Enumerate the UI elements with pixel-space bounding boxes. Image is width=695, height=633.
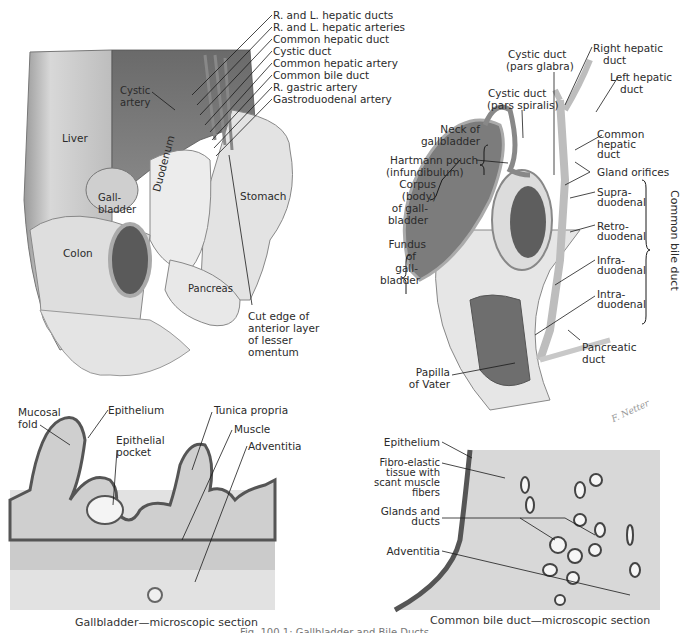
label-epithelium-gb: Epithelium <box>108 404 164 416</box>
label-cystic-artery: Cystic artery <box>120 85 154 109</box>
label-infraduodenal-2: duodenal <box>597 264 646 276</box>
label-tunica-propria: Tunica propria <box>214 404 288 416</box>
label-neck-2: gallbladder <box>410 135 480 147</box>
label-cystic-duct: Cystic duct <box>273 45 331 57</box>
label-cut-edge-4: omentum <box>248 346 299 358</box>
label-gastroduodenal-artery: Gastroduodenal artery <box>273 93 392 105</box>
label-rl-hepatic-ducts: R. and L. hepatic ducts <box>273 9 393 21</box>
label-cut-edge-2: anterior layer <box>248 322 319 334</box>
label-cystic-duct-glabra-2: (pars glabra) <box>506 60 574 72</box>
label-fundus-1: Fundus <box>380 238 426 250</box>
label-left-hepatic-duct-2: duct <box>620 83 643 95</box>
label-right-hepatic-duct-2: duct <box>603 54 626 66</box>
gallbladder-micro-illustration: Mucosal fold Epithelium Epithelial pocke… <box>0 390 290 633</box>
label-glands-2: ducts <box>360 515 440 527</box>
label-corpus-3: of gall- <box>380 202 428 214</box>
gross-anatomy-illustration: R. and L. hepatic ducts R. and L. hepati… <box>0 0 380 390</box>
label-cystic-duct-spiralis-2: (pars spiralis) <box>487 99 559 111</box>
label-corpus-1: Corpus <box>380 178 436 190</box>
label-fundus-3: gall- <box>380 262 418 274</box>
label-muscle: Muscle <box>234 423 270 435</box>
label-epithelial-pocket-2: pocket <box>116 446 151 458</box>
label-retroduodenal-2: duodenal <box>597 230 646 242</box>
label-epithelium-cbd: Epithelium <box>360 436 440 448</box>
label-mucosal-fold-1: Mucosal <box>18 406 61 418</box>
gallbladder-ducts-illustration: Cystic duct (pars glabra) Right hepatic … <box>380 0 695 430</box>
label-intraduodenal-2: duodenal <box>597 298 646 310</box>
label-colon: Colon <box>63 247 93 259</box>
label-cut-edge-1: Cut edge of <box>248 310 309 322</box>
label-common-hepatic-duct: Common hepatic duct <box>273 33 389 45</box>
gallbladder-micro-title: Gallbladder—microscopic section <box>75 616 258 629</box>
label-corpus-2: (body) <box>380 190 436 202</box>
label-common-bile-duct: Common bile duct <box>273 69 369 81</box>
label-common-hepatic-3: duct <box>597 148 620 160</box>
label-pancreatic-duct-2: duct <box>582 353 605 365</box>
label-cystic-duct-spiralis-1: Cystic duct <box>488 87 546 99</box>
label-papilla-1: Papilla <box>380 366 450 378</box>
cbd-micro-illustration: Epithelium Fibro-elastic tissue with sca… <box>360 430 695 633</box>
label-pancreatic-duct-1: Pancreatic <box>582 341 637 353</box>
label-epithelial-pocket-1: Epithelial <box>116 434 165 446</box>
label-fundus-4: bladder <box>380 274 418 286</box>
cbd-micro-title: Common bile duct—microscopic section <box>430 614 650 627</box>
label-gland-orifices: Gland orifices <box>597 166 669 178</box>
label-papilla-2: of Vater <box>380 378 450 390</box>
label-fundus-2: of <box>380 250 416 262</box>
label-r-gastric-artery: R. gastric artery <box>273 81 358 93</box>
label-pancreas: Pancreas <box>188 283 233 295</box>
label-fibro-elastic-4: fibers <box>360 488 440 498</box>
label-gallbladder: Gall- bladder <box>98 192 136 216</box>
label-left-hepatic-duct-1: Left hepatic <box>610 71 672 83</box>
label-neck-1: Neck of <box>428 123 480 135</box>
label-adventitia-gb: Adventitia <box>248 440 302 452</box>
label-right-hepatic-duct-1: Right hepatic <box>593 42 663 54</box>
label-cystic-duct-glabra-1: Cystic duct <box>508 48 566 60</box>
label-mucosal-fold-2: fold <box>18 418 38 430</box>
label-supraduodenal-2: duodenal <box>597 196 646 208</box>
figure-caption: Fig. 100.1: Gallbladder and Bile Ducts <box>240 626 429 633</box>
label-hartmann-2: (infundibulum) <box>386 166 463 178</box>
label-stomach: Stomach <box>240 190 286 202</box>
label-liver: Liver <box>62 132 88 144</box>
label-corpus-4: bladder <box>380 214 428 226</box>
label-cut-edge-3: of lesser <box>248 334 293 346</box>
label-hartmann-1: Hartmann pouch <box>390 154 478 166</box>
label-common-bile-duct-bracket: Common bile duct <box>668 190 680 291</box>
label-adventitia-cbd: Adventitia <box>360 545 440 557</box>
